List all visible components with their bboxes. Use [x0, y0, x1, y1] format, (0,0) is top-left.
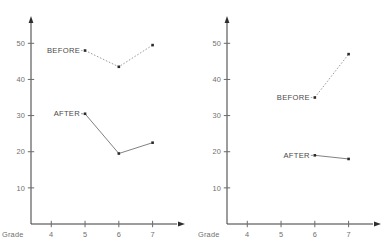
x-axis-tick-label: 5 [279, 230, 283, 239]
series-line-after [315, 155, 349, 159]
y-axis-tick-label: 10 [212, 184, 221, 193]
y-axis-tick-label: 10 [16, 184, 25, 193]
data-point-marker-before [347, 53, 350, 56]
y-axis-tick-label: 50 [212, 39, 221, 48]
x-axis-title: Grade [198, 230, 220, 239]
x-axis-tick-label: 7 [150, 230, 154, 239]
data-point-marker-before [84, 49, 87, 52]
data-point-marker-after [151, 141, 154, 144]
x-axis-tick-label: 4 [245, 230, 249, 239]
data-point-marker-after [347, 158, 350, 161]
chart-canvas-left: 10203040504567GradeBEFOREAFTER [0, 0, 195, 251]
data-point-marker-before [314, 96, 317, 99]
series-label-before: BEFORE [47, 46, 80, 55]
x-axis-tick-label: 6 [117, 230, 121, 239]
series-label-before: BEFORE [277, 93, 310, 102]
data-point-marker-after [314, 154, 317, 157]
series-label-after: AFTER [54, 109, 81, 118]
x-axis-tick-label: 7 [346, 230, 350, 239]
data-point-marker-before [118, 65, 121, 68]
y-axis-tick-label: 20 [16, 147, 25, 156]
data-point-marker-after [84, 112, 87, 115]
data-point-marker-before [151, 44, 154, 47]
x-axis-tick-label: 6 [313, 230, 317, 239]
y-axis-arrow-icon [225, 16, 230, 23]
x-axis-tick-label: 4 [49, 230, 53, 239]
x-axis-tick-label: 5 [83, 230, 87, 239]
x-axis-arrow-icon [374, 221, 381, 226]
chart-panel-left: 10203040504567GradeBEFOREAFTER [0, 0, 195, 251]
series-line-before [85, 45, 153, 67]
series-line-after [85, 114, 153, 154]
series-line-before [315, 54, 349, 97]
y-axis-tick-label: 30 [212, 111, 221, 120]
chart-canvas-right: 10203040504567GradeBEFOREAFTER [196, 0, 391, 251]
two-panel-line-chart-figure: 10203040504567GradeBEFOREAFTER 102030405… [0, 0, 391, 251]
x-axis-title: Grade [2, 230, 24, 239]
y-axis-tick-label: 40 [212, 75, 221, 84]
y-axis-tick-label: 30 [16, 111, 25, 120]
y-axis-tick-label: 20 [212, 147, 221, 156]
chart-panel-right: 10203040504567GradeBEFOREAFTER [196, 0, 391, 251]
series-label-after: AFTER [283, 151, 310, 160]
x-axis-arrow-icon [178, 221, 185, 226]
y-axis-arrow-icon [29, 16, 34, 23]
data-point-marker-after [118, 152, 121, 155]
y-axis-tick-label: 40 [16, 75, 25, 84]
y-axis-tick-label: 50 [16, 39, 25, 48]
